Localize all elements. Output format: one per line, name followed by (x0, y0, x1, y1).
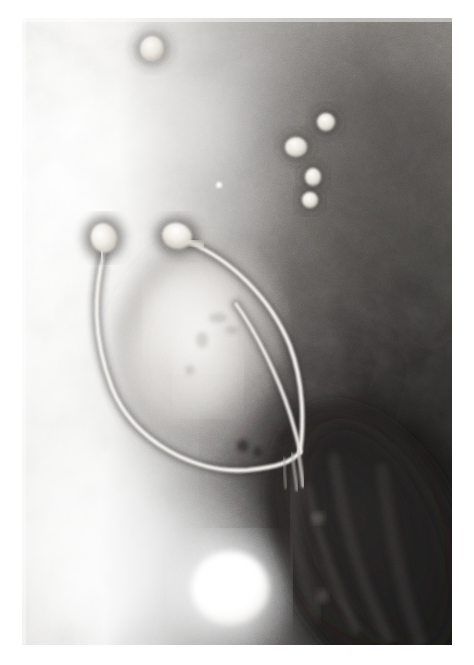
film-grain (22, 18, 452, 645)
micrograph-image (22, 18, 452, 645)
screenshot-root (0, 0, 474, 665)
micrograph-canvas (22, 18, 452, 645)
